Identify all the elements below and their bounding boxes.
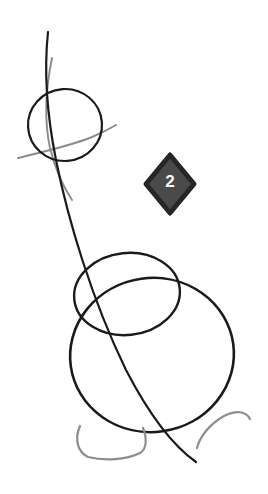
canvas-background xyxy=(0,0,268,494)
sketch-drawing xyxy=(0,0,268,494)
sketch-canvas: 2 xyxy=(0,0,268,494)
